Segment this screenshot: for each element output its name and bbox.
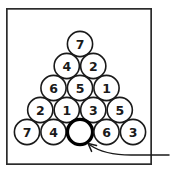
ball-number-label: 7 [76, 37, 85, 52]
ball-7[interactable]: 7 [67, 31, 92, 56]
ball-6[interactable]: 6 [41, 75, 66, 100]
ball-row-2: 651 [41, 75, 119, 100]
ball-number-label: 4 [49, 125, 58, 140]
ball-number-label: 5 [115, 103, 124, 118]
ball-number-label: 6 [102, 125, 111, 140]
ball-1[interactable]: 1 [94, 75, 119, 100]
ball-5[interactable]: 5 [67, 75, 92, 100]
ball-number-label: 3 [129, 125, 138, 140]
ball-5[interactable]: 5 [107, 97, 132, 122]
empty-ball-slot[interactable] [67, 119, 92, 144]
ball-row-4: 7463 [14, 119, 145, 144]
ball-number-label: 4 [62, 59, 71, 74]
ball-number-label: 2 [36, 103, 45, 118]
ball-2[interactable]: 2 [28, 97, 53, 122]
ball-pyramid-figure: 74265121357463 [0, 0, 170, 179]
ball-3[interactable]: 3 [120, 119, 145, 144]
ball-row-0: 7 [67, 31, 92, 56]
empty-ball-outline [67, 119, 92, 144]
pointer-annotation-group [88, 144, 169, 155]
ball-number-label: 3 [89, 103, 98, 118]
curved-arrow-shaft [90, 145, 169, 155]
ball-2[interactable]: 2 [81, 53, 106, 78]
ball-4[interactable]: 4 [54, 53, 79, 78]
ball-number-label: 1 [102, 81, 111, 96]
ball-4[interactable]: 4 [41, 119, 66, 144]
ball-number-label: 2 [89, 59, 98, 74]
ball-number-label: 5 [76, 81, 85, 96]
ball-6[interactable]: 6 [94, 119, 119, 144]
ball-7[interactable]: 7 [14, 119, 39, 144]
ball-number-label: 7 [23, 125, 32, 140]
ball-number-label: 1 [62, 103, 71, 118]
ball-number-label: 6 [49, 81, 58, 96]
ball-pyramid-group: 74265121357463 [14, 31, 145, 144]
figure-canvas: 74265121357463 [0, 0, 170, 179]
